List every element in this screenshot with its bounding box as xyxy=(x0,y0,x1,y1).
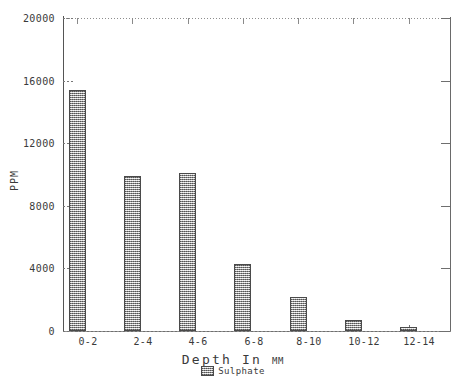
x-tick-label-4-6: 4-6 xyxy=(189,336,208,347)
y-tick-right-12000 xyxy=(441,143,450,144)
x-tick-label-8-10: 8-10 xyxy=(296,336,321,347)
x-tick-top-12-14 xyxy=(409,18,410,24)
y-tick-label-4000: 4000 xyxy=(29,263,55,274)
bar-2-4 xyxy=(124,176,141,331)
y-tick-label-0: 0 xyxy=(49,326,55,337)
legend-label-sulphate: Sulphate xyxy=(218,366,265,376)
y-tick-label-16000: 16000 xyxy=(23,75,55,86)
x-axis-title: Depth In MM xyxy=(0,352,466,367)
y-tick-16000 xyxy=(63,81,73,82)
legend-swatch-sulphate xyxy=(201,366,214,376)
x-tick-top-2-4 xyxy=(132,18,133,24)
plot-frame-top-border xyxy=(63,18,451,19)
bar-4-6 xyxy=(179,173,196,331)
y-tick-20000 xyxy=(63,18,73,19)
bar-12-14 xyxy=(400,327,417,331)
x-tick-top-0-2 xyxy=(77,18,78,24)
y-tick-right-16000 xyxy=(441,81,450,82)
y-tick-right-4000 xyxy=(441,268,450,269)
x-axis-line xyxy=(63,331,451,332)
legend: Sulphate xyxy=(0,366,466,376)
plot-frame-right-border xyxy=(450,17,451,332)
y-axis-title: PPM xyxy=(9,170,20,191)
bar-chart: 040008000120001600020000 0-22-44-66-88-1… xyxy=(0,0,466,378)
x-tick-label-0-2: 0-2 xyxy=(79,336,98,347)
x-axis-title-unit: MM xyxy=(272,356,284,366)
x-axis-title-main: Depth In xyxy=(182,352,262,367)
bar-10-12 xyxy=(345,320,362,331)
y-tick-label-12000: 12000 xyxy=(23,138,55,149)
y-tick-right-0 xyxy=(441,331,450,332)
bar-8-10 xyxy=(290,297,307,331)
y-tick-0 xyxy=(63,331,73,332)
x-tick-top-4-6 xyxy=(188,18,189,24)
x-tick-label-2-4: 2-4 xyxy=(134,336,153,347)
y-tick-label-20000: 20000 xyxy=(23,13,55,24)
y-tick-right-8000 xyxy=(441,206,450,207)
y-axis-line xyxy=(63,16,64,332)
y-tick-right-20000 xyxy=(441,18,450,19)
bar-6-8 xyxy=(234,264,251,331)
bar-0-2 xyxy=(69,90,86,331)
x-tick-top-10-12 xyxy=(353,18,354,24)
x-tick-label-12-14: 12-14 xyxy=(403,336,435,347)
x-tick-label-6-8: 6-8 xyxy=(245,336,264,347)
y-tick-label-8000: 8000 xyxy=(29,200,55,211)
x-tick-top-6-8 xyxy=(243,18,244,24)
x-tick-label-10-12: 10-12 xyxy=(348,336,380,347)
x-tick-top-8-10 xyxy=(298,18,299,24)
